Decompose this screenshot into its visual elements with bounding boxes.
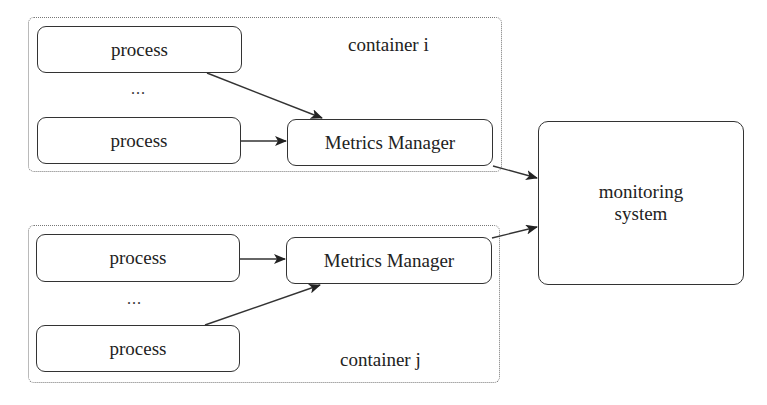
- container-i-label: container i: [348, 34, 429, 56]
- metrics-manager-label: Metrics Manager: [325, 132, 455, 154]
- monitoring-system-label-line1: monitoring: [599, 181, 683, 203]
- container-i-metrics-manager: Metrics Manager: [287, 119, 493, 166]
- container-j-ellipsis: ...: [127, 290, 142, 308]
- container-i-process-1: process: [37, 26, 242, 73]
- container-j-process-1: process: [36, 234, 240, 282]
- container-j-process-2: process: [36, 325, 240, 372]
- container-i-ellipsis: ...: [131, 80, 146, 98]
- process-label: process: [110, 247, 167, 269]
- container-j-label: container j: [340, 349, 421, 371]
- process-label: process: [110, 338, 167, 360]
- process-label: process: [111, 130, 168, 152]
- monitoring-system-label-line2: system: [615, 203, 668, 225]
- metrics-manager-label: Metrics Manager: [324, 250, 454, 272]
- process-label: process: [111, 39, 168, 61]
- container-i-process-2: process: [37, 117, 241, 164]
- monitoring-system: monitoring system: [538, 121, 744, 285]
- container-j-metrics-manager: Metrics Manager: [286, 237, 492, 284]
